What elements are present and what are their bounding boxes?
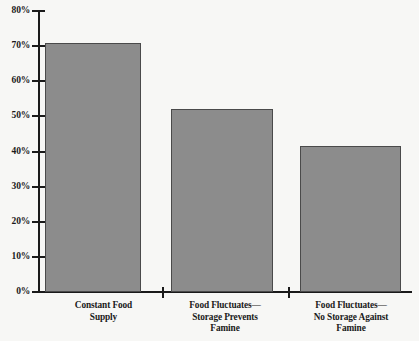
y-axis-tick-label: 70% (0, 41, 30, 51)
category-label-line: Constant Food (45, 300, 162, 312)
category-label-line: Food Fluctuates— (288, 300, 414, 312)
bar-chart: 0%10%20%30%40%50%60%70%80% Constant Food… (0, 0, 419, 341)
y-axis-tick (32, 45, 45, 47)
y-axis-tick-label: 0% (0, 287, 30, 297)
y-axis-tick (32, 221, 45, 223)
x-axis-category-label: Food Fluctuates—No Storage AgainstFamine (288, 300, 414, 335)
category-label-line: No Storage Against (288, 312, 414, 324)
y-axis-tick-label: 80% (0, 6, 30, 16)
y-axis-tick (32, 80, 45, 82)
bar (171, 109, 273, 292)
x-axis-category-label: Constant FoodSupply (45, 300, 162, 323)
bar (300, 146, 401, 292)
y-axis-tick (32, 151, 45, 153)
y-axis-tick (32, 291, 45, 293)
x-axis-tick (162, 287, 164, 298)
y-axis-tick-label: 50% (0, 111, 30, 121)
y-axis-tick-label: 10% (0, 252, 30, 262)
category-label-line: Food Fluctuates— (162, 300, 288, 312)
category-label-line: Famine (288, 323, 414, 335)
bar (45, 43, 141, 292)
y-axis-tick (32, 10, 45, 12)
x-axis-category-label: Food Fluctuates—Storage PreventsFamine (162, 300, 288, 335)
x-axis-tick (288, 287, 290, 298)
y-axis-tick-label: 60% (0, 76, 30, 86)
y-axis-tick (32, 256, 45, 258)
category-label-line: Storage Prevents (162, 312, 288, 324)
category-label-line: Famine (162, 323, 288, 335)
y-axis-tick-label: 40% (0, 147, 30, 157)
y-axis-tick-label: 20% (0, 217, 30, 227)
y-axis-tick (32, 115, 45, 117)
y-axis-tick (32, 186, 45, 188)
y-axis-tick-label: 30% (0, 182, 30, 192)
category-label-line: Supply (45, 312, 162, 324)
